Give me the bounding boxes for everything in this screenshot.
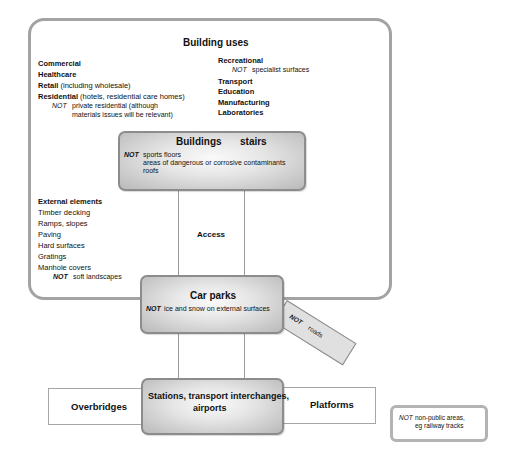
buildings-not-item: roofs <box>143 167 159 174</box>
external-item: Gratings <box>38 252 66 261</box>
note-line2: eg railway tracks <box>415 422 463 429</box>
use-retail: Retail (including wholesale) <box>38 81 131 90</box>
note-line1: non-public areas, <box>415 414 465 421</box>
car-parks-title: Car parks <box>190 290 236 301</box>
buildings-title: Buildings <box>176 136 222 147</box>
stairs-title: stairs <box>240 136 267 147</box>
use-commercial: Commercial <box>38 59 81 68</box>
residential-not-line1: private residential (although <box>72 102 158 109</box>
buildings-not-item: sports floors <box>143 151 181 158</box>
buildings-not-label: NOT <box>124 151 139 158</box>
residential-not-line2: materials issues will be relevant) <box>72 111 173 118</box>
external-item: Ramps, slopes <box>38 219 88 228</box>
recreational-not-text: specialist surfaces <box>252 66 309 73</box>
roads-text: roads <box>307 324 325 339</box>
external-not-label: NOT <box>53 273 68 280</box>
use-education: Education <box>218 87 254 96</box>
stations-line1: Stations, transport interchanges, <box>148 391 289 401</box>
note-not-label: NOT <box>399 414 413 421</box>
roads-box: NOT roads <box>273 300 356 366</box>
use-healthcare: Healthcare <box>38 70 76 79</box>
external-item: Manhole covers <box>38 263 91 272</box>
use-recreational: Recreational <box>218 56 263 65</box>
roads-not-label: NOT <box>288 313 303 326</box>
use-manufacturing: Manufacturing <box>218 98 270 107</box>
external-elements-title: External elements <box>38 197 102 206</box>
car-parks-not-text: ice and snow on external surfaces <box>164 305 270 312</box>
external-not-text: soft landscapes <box>73 273 122 280</box>
use-laboratories: Laboratories <box>218 108 263 117</box>
residential-not-label: NOT <box>52 102 67 109</box>
external-item: Hard surfaces <box>38 241 85 250</box>
recreational-not-label: NOT <box>232 66 247 73</box>
access-label: Access <box>197 230 225 239</box>
stations-line2: airports <box>193 403 227 413</box>
use-residential: Residential (hotels, residential care ho… <box>38 92 185 101</box>
building-uses-title: Building uses <box>183 37 249 48</box>
overbridges-label: Overbridges <box>71 401 127 412</box>
external-item: Timber decking <box>38 208 90 217</box>
car-parks-not-label: NOT <box>146 305 161 312</box>
external-item: Paving <box>38 230 61 239</box>
buildings-not-item: areas of dangerous or corrosive contamin… <box>143 159 285 166</box>
use-transport: Transport <box>218 77 253 86</box>
platforms-label: Platforms <box>310 399 354 410</box>
